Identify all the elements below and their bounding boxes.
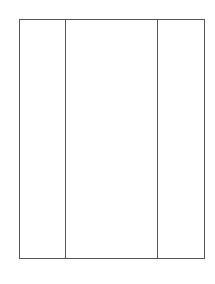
outer-frame bbox=[19, 19, 205, 259]
right-panel bbox=[158, 20, 204, 258]
left-panel bbox=[20, 20, 66, 258]
diagram-canvas bbox=[0, 0, 215, 284]
center-panel bbox=[66, 20, 158, 258]
